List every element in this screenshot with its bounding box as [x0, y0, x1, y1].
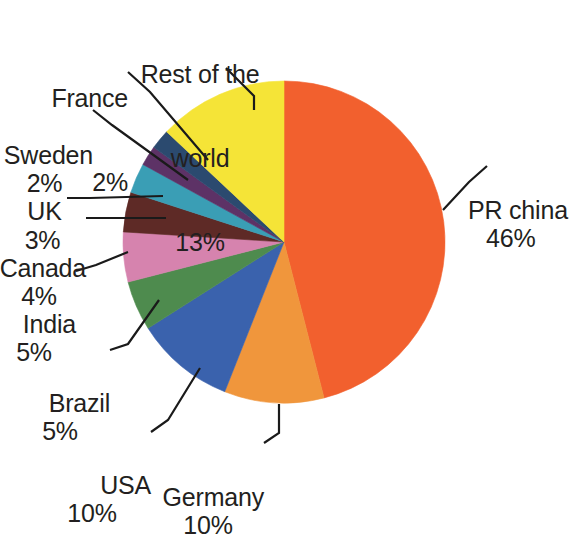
slice-value-usa-wrap: 10%	[42, 443, 142, 538]
slice-label-rest-of-world-line2: world	[131, 144, 269, 172]
slice-value-rest-of-world: 13%	[131, 228, 269, 256]
leader-line-usa	[151, 368, 200, 432]
slice-value-germany-wrap: 10%	[150, 455, 266, 538]
leader-line-germany	[264, 404, 279, 443]
slice-value-germany: 10%	[150, 511, 266, 538]
slice-value-pr-china: 46%	[486, 224, 573, 252]
slice-label-rest-of-world: Rest of the world 13%	[131, 4, 269, 312]
slice-value-usa: 10%	[42, 499, 142, 527]
slice-label-rest-of-world-line1: Rest of the	[131, 60, 269, 88]
slice-value-pr-china-wrap: 46%	[486, 168, 573, 308]
